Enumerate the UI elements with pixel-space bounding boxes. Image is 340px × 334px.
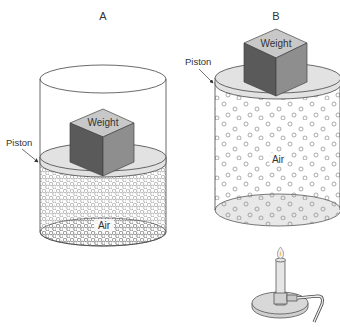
weight-cube-a: Weight xyxy=(70,109,134,176)
panel-b: B Air Weight Piston xyxy=(185,10,340,322)
air-label-a: Air xyxy=(98,220,111,231)
air-label-b: Air xyxy=(272,154,285,165)
panel-a: A Air Weight Piston xyxy=(6,10,166,246)
weight-cube-b: Weight xyxy=(244,29,307,96)
weight-label-b: Weight xyxy=(261,38,292,49)
weight-label-a: Weight xyxy=(88,117,119,128)
diagram-canvas: A Air Weight Piston xyxy=(0,0,340,334)
piston-arrow-a xyxy=(22,149,38,162)
panel-a-title: A xyxy=(99,10,107,22)
piston-arrow-b xyxy=(199,69,213,83)
bunsen-burner-icon xyxy=(252,247,323,322)
piston-label-a: Piston xyxy=(6,137,32,148)
panel-b-title: B xyxy=(272,10,279,22)
piston-label-b: Piston xyxy=(185,56,211,67)
air-region-b: Air xyxy=(215,87,340,226)
